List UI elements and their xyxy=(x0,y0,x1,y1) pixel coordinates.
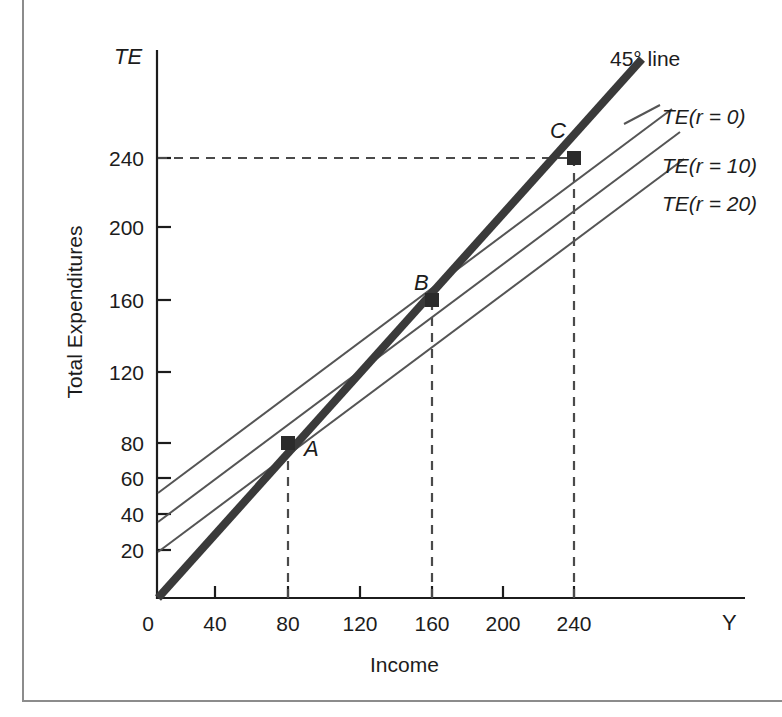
y-tick-label-160: 160 xyxy=(92,290,144,311)
y-tick-label-40: 40 xyxy=(92,504,144,525)
series-line-te-r20 xyxy=(158,159,684,552)
series-line-45-degree xyxy=(158,59,642,598)
series-line-te-r10 xyxy=(158,132,680,522)
y-tick-label-80: 80 xyxy=(92,433,144,454)
legend-label-45-degree: 45° line xyxy=(610,48,680,69)
y-tick-label-120: 120 xyxy=(92,362,144,383)
y-tick-label-200: 200 xyxy=(92,217,144,238)
x-tick-label-80: 80 xyxy=(258,613,318,634)
point-marker-a xyxy=(281,436,295,450)
point-label-c: C xyxy=(550,120,566,142)
x-axis-symbol: Y xyxy=(722,612,737,634)
y-axis-title: Total Expenditures xyxy=(63,197,87,427)
y-axis-symbol: TE xyxy=(114,46,142,68)
x-tick-label-0: 0 xyxy=(118,613,178,634)
legend-label-te-r20: TE(r = 20) xyxy=(662,193,757,214)
point-label-a: A xyxy=(304,438,319,460)
legend-label-te-r10: TE(r = 10) xyxy=(662,155,757,176)
y-tick-label-240: 240 xyxy=(92,148,144,169)
x-tick-label-240: 240 xyxy=(544,613,604,634)
y-tick-label-20: 20 xyxy=(92,540,144,561)
y-tick-label-60: 60 xyxy=(92,468,144,489)
x-tick-label-120: 120 xyxy=(330,613,390,634)
x-tick-label-200: 200 xyxy=(473,613,533,634)
x-tick-marks xyxy=(215,586,574,598)
point-marker-c xyxy=(567,151,581,165)
series-line-te-r0 xyxy=(158,109,672,493)
x-tick-label-160: 160 xyxy=(402,613,462,634)
legend-label-te-r0: TE(r = 0) xyxy=(662,106,745,127)
point-marker-b xyxy=(425,293,439,307)
x-tick-label-40: 40 xyxy=(185,613,245,634)
x-axis-title: Income xyxy=(370,654,439,675)
figure-panel: TE Y Total Expenditures Income 240 200 1… xyxy=(0,0,782,717)
point-label-b: B xyxy=(414,272,429,294)
